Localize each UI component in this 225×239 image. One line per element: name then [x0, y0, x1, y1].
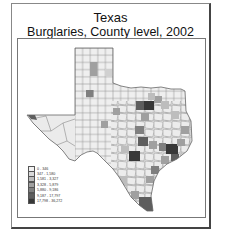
- legend-item: 17,798 - 36,272: [28, 198, 62, 203]
- legend-label: 347 - 1,580: [37, 172, 55, 176]
- legend-label: 1,581 - 3,327: [37, 177, 58, 181]
- legend-label: 5,880 - 9,186: [37, 188, 58, 192]
- map-panel: 0 - 346 347 - 1,580 1,581 - 3,327 3,328 …: [17, 38, 206, 218]
- map-title: Texas: [12, 10, 209, 25]
- legend-label: 0 - 346: [37, 167, 48, 171]
- legend-swatch: [28, 198, 35, 204]
- map-legend: 0 - 346 347 - 1,580 1,581 - 3,327 3,328 …: [28, 166, 62, 204]
- legend-label: 17,798 - 36,272: [37, 199, 62, 203]
- legend-label: 9,187 - 17,797: [37, 194, 60, 198]
- legend-label: 3,328 - 5,879: [37, 183, 58, 187]
- map-subtitle: Burglaries, County level, 2002: [12, 25, 209, 39]
